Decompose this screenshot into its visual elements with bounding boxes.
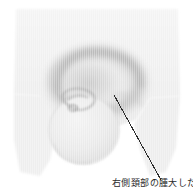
scanline-texture — [0, 0, 193, 187]
figure-panel: 右側頚部の腫大した… — [0, 0, 193, 187]
anatomical-illustration — [0, 0, 193, 187]
figure-caption: 右側頚部の腫大した… — [112, 178, 193, 187]
